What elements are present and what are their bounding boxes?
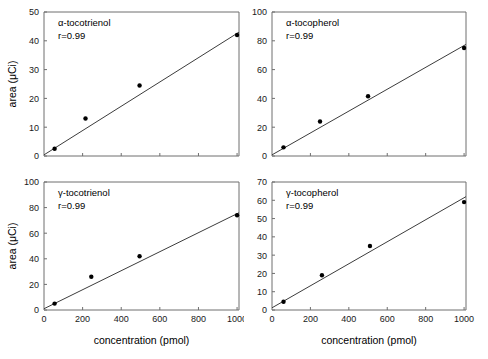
x-tick-label: 1000 xyxy=(454,314,474,324)
data-point xyxy=(368,244,372,248)
y-tick-label: 20 xyxy=(29,280,39,290)
panel-title: γ-tocopherol xyxy=(286,187,338,198)
x-tick-label: 200 xyxy=(303,314,318,324)
data-point xyxy=(137,83,141,87)
x-axis-title: concentration (pmol) xyxy=(321,334,417,346)
data-point xyxy=(462,46,466,50)
y-tick-label: 50 xyxy=(29,7,39,17)
x-tick-label: 1000 xyxy=(227,314,244,324)
data-point xyxy=(320,273,324,277)
data-point xyxy=(235,213,239,217)
data-point xyxy=(83,116,87,120)
data-point xyxy=(52,147,56,151)
y-axis-title: area (μCi) xyxy=(6,223,18,270)
x-axis-title: concentration (pmol) xyxy=(94,334,190,346)
x-tick-label: 600 xyxy=(380,314,395,324)
y-tick-label: 20 xyxy=(29,94,39,104)
panel-title: α-tocopherol xyxy=(286,17,339,28)
data-point xyxy=(462,200,466,204)
y-tick-label: 60 xyxy=(29,229,39,239)
y-tick-label: 40 xyxy=(29,36,39,46)
y-tick-label: 20 xyxy=(257,269,267,279)
data-point xyxy=(52,301,56,305)
y-tick-label: 100 xyxy=(24,177,39,187)
y-tick-label: 40 xyxy=(29,254,39,264)
y-tick-label: 20 xyxy=(257,123,267,133)
y-axis-title: area (μCi) xyxy=(6,61,18,108)
data-point xyxy=(89,275,93,279)
x-tick-label: 600 xyxy=(152,314,167,324)
y-tick-label: 60 xyxy=(257,196,267,206)
data-point xyxy=(281,300,285,304)
panel-gamma-tocotrienol: 02040608010002004006008001000γ-tocotrien… xyxy=(0,176,244,359)
y-tick-label: 50 xyxy=(257,214,267,224)
panel-alpha-tocopherol: 020406080100α-tocopherolr=0.99 xyxy=(244,0,488,176)
y-tick-label: 0 xyxy=(34,305,39,315)
x-tick-label: 0 xyxy=(41,314,46,324)
y-tick-label: 100 xyxy=(252,7,267,17)
data-point xyxy=(235,33,239,37)
data-point xyxy=(281,145,285,149)
data-point xyxy=(318,119,322,123)
x-tick-label: 400 xyxy=(341,314,356,324)
correlation-annotation: r=0.99 xyxy=(286,200,313,211)
regression-line xyxy=(44,213,239,309)
y-tick-label: 0 xyxy=(34,151,39,161)
y-tick-label: 80 xyxy=(29,203,39,213)
y-tick-label: 0 xyxy=(262,151,267,161)
y-tick-label: 10 xyxy=(257,287,267,297)
x-tick-label: 0 xyxy=(269,314,274,324)
y-tick-label: 10 xyxy=(29,123,39,133)
panel-alpha-tocotrienol: 01020304050α-tocotrienolr=0.99area (μCi) xyxy=(0,0,244,176)
correlation-annotation: r=0.99 xyxy=(58,200,85,211)
regression-line xyxy=(272,44,466,154)
y-tick-label: 40 xyxy=(257,94,267,104)
data-point xyxy=(366,94,370,98)
figure-canvas: 01020304050α-tocotrienolr=0.99area (μCi)… xyxy=(0,0,488,359)
x-tick-label: 800 xyxy=(418,314,433,324)
x-tick-label: 400 xyxy=(114,314,129,324)
data-point xyxy=(137,254,141,258)
y-tick-label: 80 xyxy=(257,36,267,46)
correlation-annotation: r=0.99 xyxy=(58,30,85,41)
y-tick-label: 60 xyxy=(257,65,267,75)
regression-line xyxy=(272,197,466,308)
y-tick-label: 30 xyxy=(29,65,39,75)
regression-line xyxy=(44,32,239,155)
y-tick-label: 30 xyxy=(257,251,267,261)
panel-gamma-tocopherol: 01020304050607002004006008001000γ-tocoph… xyxy=(244,176,488,359)
y-tick-label: 0 xyxy=(262,305,267,315)
correlation-annotation: r=0.99 xyxy=(286,30,313,41)
panel-title: α-tocotrienol xyxy=(58,17,111,28)
x-tick-label: 200 xyxy=(75,314,90,324)
panel-title: γ-tocotrienol xyxy=(58,187,110,198)
y-tick-label: 70 xyxy=(257,177,267,187)
y-tick-label: 40 xyxy=(257,232,267,242)
x-tick-label: 800 xyxy=(191,314,206,324)
